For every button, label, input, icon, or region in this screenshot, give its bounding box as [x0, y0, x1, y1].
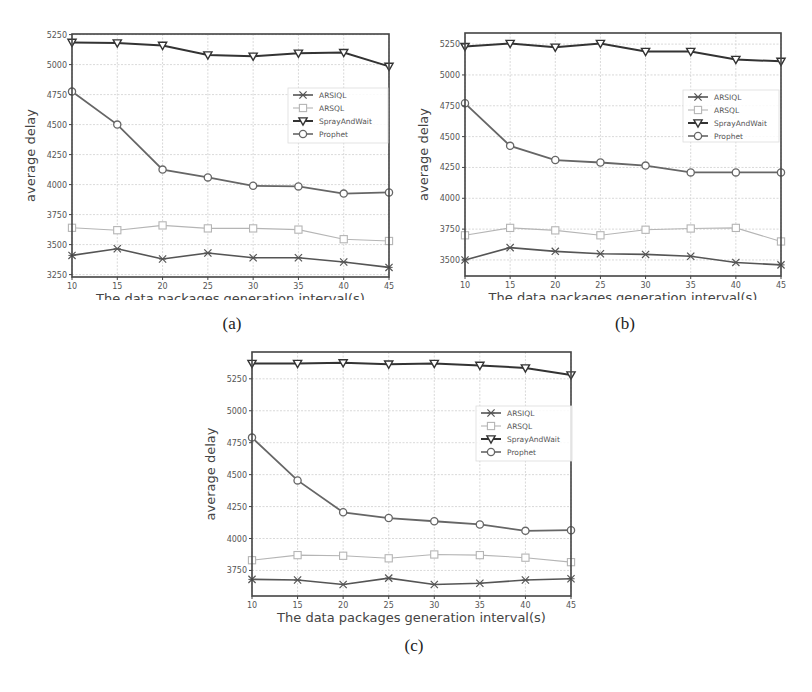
legend-label: ARSQL [319, 104, 345, 113]
data-point-marker [250, 182, 257, 189]
y-tick-label: 3500 [47, 241, 67, 250]
data-point-marker [295, 183, 302, 190]
legend-label: ARSIQL [319, 91, 347, 100]
series-sprayandwait [68, 39, 393, 70]
legend-label: Prophet [507, 448, 536, 457]
data-point-marker [552, 156, 559, 163]
x-tick-label: 35 [686, 281, 696, 290]
data-point-marker [522, 554, 529, 561]
x-tick-label: 40 [731, 281, 741, 290]
legend-marker-icon [694, 132, 701, 139]
data-point-marker [687, 169, 694, 176]
line-chart-a: 1015202530354045325035003750400042504500… [0, 0, 400, 300]
y-tick-label: 3750 [227, 566, 247, 575]
y-tick-label: 4750 [227, 439, 247, 448]
x-tick-label: 40 [520, 601, 530, 610]
y-tick-label: 4750 [47, 91, 67, 100]
x-tick-label: 20 [550, 281, 560, 290]
x-tick-label: 30 [248, 282, 258, 291]
x-tick-label: 10 [67, 282, 77, 291]
legend-label: ARSIQL [507, 409, 535, 418]
y-tick-label: 5250 [47, 31, 67, 40]
x-tick-label: 25 [384, 601, 394, 610]
data-point-marker [522, 527, 529, 534]
y-tick-label: 4000 [47, 181, 67, 190]
chart-panel-a: 1015202530354045325035003750400042504500… [0, 0, 400, 330]
data-point-marker [114, 227, 121, 234]
y-tick-label: 5000 [227, 407, 247, 416]
legend: ARSIQLARSQLSprayAndWaitProphet [476, 406, 572, 461]
data-point-marker [597, 232, 604, 239]
y-tick-label: 5000 [47, 61, 67, 70]
legend-entry-arsql: ARSQL [293, 104, 345, 113]
data-point-marker [642, 162, 649, 169]
y-tick-label: 4000 [440, 194, 460, 203]
x-axis-label: The data packages generation interval(s) [276, 610, 546, 625]
x-tick-label: 15 [112, 282, 122, 291]
legend: ARSIQLARSQLSprayAndWaitProphet [288, 88, 388, 143]
data-point-marker [431, 551, 438, 558]
legend-label: Prophet [319, 130, 348, 139]
x-tick-label: 45 [566, 601, 576, 610]
y-tick-label: 3750 [47, 211, 67, 220]
data-point-marker [294, 552, 301, 559]
data-point-marker [340, 552, 347, 559]
data-point-marker [476, 552, 483, 559]
data-point-marker [204, 174, 211, 181]
y-axis-label: average delay [416, 108, 431, 201]
data-point-marker [295, 226, 302, 233]
chart-panel-b: 1015202530354045350037504000425045004750… [400, 0, 812, 330]
y-tick-label: 5250 [227, 375, 247, 384]
x-tick-label: 35 [293, 282, 303, 291]
y-tick-label: 4250 [440, 163, 460, 172]
y-tick-label: 5000 [440, 71, 460, 80]
x-tick-label: 10 [247, 601, 257, 610]
y-tick-label: 4750 [440, 102, 460, 111]
x-tick-label: 15 [505, 281, 515, 290]
data-point-marker [552, 227, 559, 234]
data-point-marker [340, 190, 347, 197]
y-tick-label: 4500 [47, 121, 67, 130]
x-tick-label: 45 [776, 281, 786, 290]
data-point-marker [340, 509, 347, 516]
x-tick-label: 25 [203, 282, 213, 291]
line-chart-c: 1015202530354045375040004250450047505000… [195, 330, 595, 625]
x-tick-label: 30 [640, 281, 650, 290]
data-point-marker [597, 159, 604, 166]
data-point-marker [385, 555, 392, 562]
y-tick-label: 5250 [440, 40, 460, 49]
x-axis-label: The data packages generation interval(s) [488, 290, 758, 300]
y-axis-label: average delay [23, 109, 38, 202]
legend-marker-icon [299, 130, 306, 137]
y-axis-label: average delay [203, 427, 218, 520]
data-point-marker [159, 222, 166, 229]
data-point-marker [642, 226, 649, 233]
x-axis-label: The data packages generation interval(s) [95, 291, 365, 300]
data-point-marker [114, 121, 121, 128]
x-tick-label: 10 [460, 281, 470, 290]
legend-marker-icon [299, 104, 306, 111]
caption-b: (b) [595, 314, 655, 334]
y-tick-label: 4250 [47, 151, 67, 160]
legend-entry-prophet: Prophet [293, 130, 348, 139]
series-arsql [461, 224, 784, 245]
x-tick-label: 15 [292, 601, 302, 610]
legend-label: SprayAndWait [714, 119, 767, 128]
legend-label: ARSQL [714, 106, 740, 115]
legend: ARSIQLARSQLSprayAndWaitProphet [683, 90, 779, 142]
y-tick-label: 4500 [227, 471, 247, 480]
chart-panel-c: 1015202530354045375040004250450047505000… [195, 330, 595, 630]
x-tick-label: 35 [475, 601, 485, 610]
legend-entry-arsql: ARSQL [688, 106, 740, 115]
y-tick-label: 3250 [47, 271, 67, 280]
x-tick-label: 25 [595, 281, 605, 290]
data-point-marker [732, 169, 739, 176]
data-point-marker [476, 521, 483, 528]
series-sprayandwait [248, 360, 575, 379]
data-point-marker [340, 236, 347, 243]
legend-label: Prophet [714, 132, 743, 141]
data-point-marker [294, 477, 301, 484]
data-point-marker [507, 142, 514, 149]
line-chart-b: 1015202530354045350037504000425045004750… [400, 0, 812, 300]
data-point-marker [159, 166, 166, 173]
